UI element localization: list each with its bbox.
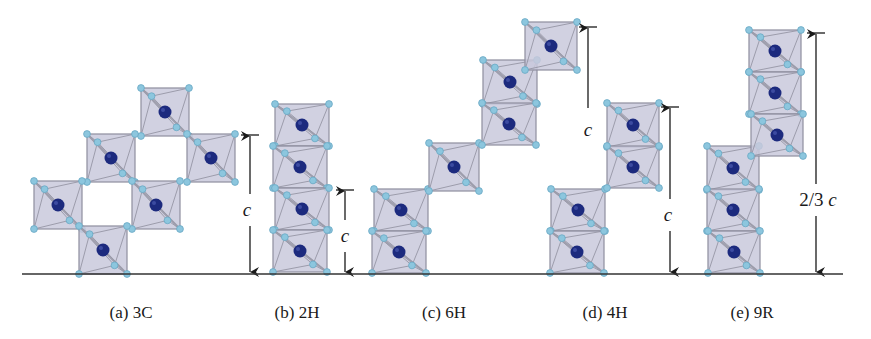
octahedron [548,186,609,235]
structure-3c [31,85,239,278]
octahedron [129,178,184,233]
dimension-arrow-6h [579,27,597,108]
structure-9r [704,27,807,277]
caption-9r: (e) 9R [731,303,774,323]
anion-atom [84,131,91,138]
cation-atom [105,152,118,165]
anion-atom [587,262,594,269]
octahedron [604,100,663,151]
anion-atom [716,235,723,242]
anion-atom [757,228,764,235]
anion-atom [601,228,608,235]
anion-atom [232,131,239,138]
anion-atom [184,179,191,186]
cation-atom [294,161,307,174]
anion-atom [124,223,131,230]
anion-atom [559,193,566,200]
octahedron [184,131,239,186]
anion-atom [742,220,749,227]
octahedron [369,228,430,277]
anion-atom [380,235,387,242]
caption-4h: (d) 4H [583,303,628,323]
anion-atom [270,227,277,234]
caption-3c: (a) 3C [110,303,153,323]
anion-atom [270,143,277,150]
cation-atom [545,40,558,53]
anion-atom [615,107,622,114]
cation-atom [627,161,640,174]
octahedron [371,186,432,235]
anion-atom [746,27,753,34]
anion-atom [119,170,126,177]
anion-atom [326,101,333,108]
anion-atom [560,58,567,65]
anion-atom [437,148,444,155]
dimension-label-3c: c [243,199,251,221]
anion-atom [601,270,608,277]
dimension-arrow-4h [661,107,679,272]
structure-2h [270,101,333,276]
cation-atom [205,152,218,165]
anion-atom [310,261,317,268]
anion-atom [784,103,791,110]
cation-atom [150,199,163,212]
anion-atom [491,64,498,71]
anion-atom [798,27,805,34]
anion-atom [784,61,791,68]
polytype-stacking-figure: c c c c 2/3 c (a) 3C (b) 2H (c) 6H (d) 4… [0,0,871,339]
cation-atom [627,119,640,132]
anion-atom [757,270,764,277]
dimension-label-9r: 2/3 c [799,189,836,211]
anion-atom [66,217,73,224]
octahedron [547,228,608,277]
anion-atom [423,270,430,277]
anion-atom [656,143,663,150]
octahedron [705,228,764,277]
anion-atom [139,186,146,193]
anion-atom [547,270,554,277]
anion-atom [164,217,171,224]
cation-atom [769,87,782,100]
octahedron [138,85,193,140]
dimension-label-2h: c [341,225,349,247]
cation-atom [395,204,408,217]
anion-atom [312,135,319,142]
anion-atom [704,143,711,150]
octahedra-layer [31,19,807,278]
anion-atom [715,193,722,200]
anion-atom [798,69,805,76]
anion-atom [281,150,288,157]
anion-atom [558,235,565,242]
anion-atom [705,228,712,235]
anion-atom [656,185,663,192]
anion-atom [604,143,611,150]
anion-atom [94,139,101,146]
anion-atom [232,179,239,186]
octahedron [270,143,331,192]
anion-atom [756,186,763,193]
anion-atom [759,118,766,125]
anion-atom [184,131,191,138]
anion-atom [757,76,764,83]
anion-atom [411,220,418,227]
anion-atom [786,145,793,152]
anion-atom [604,100,611,107]
cation-atom [728,246,741,259]
anion-atom [748,111,755,118]
anion-atom [490,107,497,114]
anion-atom [642,136,649,143]
dimension-label-6h: c [584,119,592,141]
cation-atom [727,162,740,175]
anion-atom [480,57,487,64]
octahedron [746,27,805,76]
anion-atom [522,67,529,74]
anion-atom [588,220,595,227]
anion-atom [409,262,416,269]
anion-atom [177,226,184,233]
octahedron [522,19,581,74]
cation-atom [572,204,585,217]
structure-drawing [0,0,871,339]
cation-atom [504,76,517,89]
anion-atom [272,101,279,108]
cation-atom [294,245,307,258]
